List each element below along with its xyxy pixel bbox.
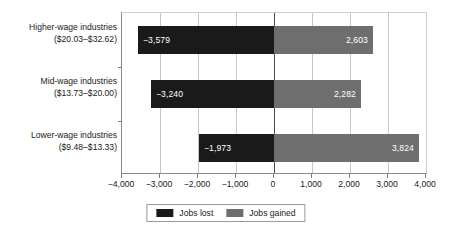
xaxis-tick-label-neg3000: −3,000 [146, 179, 173, 189]
category-label-line2: ($20.03–$32.62) [4, 34, 117, 46]
legend-item-jobs-lost: Jobs lost [156, 208, 213, 218]
bar-value-label: −3,240 [151, 89, 188, 99]
bar-value-label: 3,824 [387, 143, 419, 153]
category-label-line1: Mid-wage industries [4, 76, 117, 88]
category-label-line2: ($9.48–$13.33) [4, 142, 117, 154]
legend-swatch-icon [226, 209, 243, 217]
xaxis-tick [349, 174, 350, 178]
xaxis-tick [235, 174, 236, 178]
xaxis-tick-label-neg1000: −1,000 [222, 179, 249, 189]
legend-item-jobs-gained: Jobs gained [226, 208, 295, 218]
bar-value-label: 2,603 [341, 35, 373, 45]
xaxis-tick [197, 174, 198, 178]
bar-jobs-lost-higher-wage: −3,579 [138, 26, 274, 54]
bar-jobs-lost-lower-wage: −1,973 [199, 134, 274, 162]
xaxis-tick [311, 174, 312, 178]
category-label-line2: ($13.73–$20.00) [4, 88, 117, 100]
category-tick [118, 67, 122, 68]
bar-jobs-lost-mid-wage: −3,240 [151, 80, 274, 108]
xaxis-tick [159, 174, 160, 178]
bar-value-label: −3,579 [138, 35, 175, 45]
bar-jobs-gained-mid-wage: 2,282 [274, 80, 361, 108]
xaxis-tick-label-zero: 0 [271, 179, 276, 189]
bar-value-label: 2,282 [329, 89, 361, 99]
xaxis-tick [273, 174, 274, 178]
xaxis-tick [387, 174, 388, 178]
xaxis-tick-label-pos1000: 1,000 [300, 179, 322, 189]
bar-value-label: −1,973 [199, 143, 236, 153]
xaxis-tick [121, 174, 122, 178]
category-tick [118, 121, 122, 122]
category-label-mid-wage: Mid-wage industries ($13.73–$20.00) [4, 76, 117, 99]
category-label-lower-wage: Lower-wage industries ($9.48–$13.33) [4, 130, 117, 153]
xaxis-tick-label-pos3000: 3,000 [376, 179, 398, 189]
category-label-line1: Higher-wage industries [4, 22, 117, 34]
plot-area: −3,579 2,603 −3,240 2,282 −1,973 3,824 [121, 12, 427, 174]
diverging-bar-chart: Higher-wage industries ($20.03–$32.62) M… [0, 0, 452, 237]
legend-label: Jobs gained [249, 208, 295, 218]
bar-jobs-gained-lower-wage: 3,824 [274, 134, 419, 162]
legend-label: Jobs lost [179, 208, 213, 218]
xaxis-tick-label-pos2000: 2,000 [338, 179, 360, 189]
xaxis-tick [425, 174, 426, 178]
category-label-higher-wage: Higher-wage industries ($20.03–$32.62) [4, 22, 117, 45]
chart-legend: Jobs lost Jobs gained [146, 204, 305, 222]
xaxis-tick-label-neg2000: −2,000 [184, 179, 211, 189]
category-label-line1: Lower-wage industries [4, 130, 117, 142]
legend-swatch-icon [156, 209, 173, 217]
xaxis-tick-label-pos4000: 4,000 [414, 179, 436, 189]
xaxis-tick-label-neg4000: −4,000 [108, 179, 135, 189]
bar-jobs-gained-higher-wage: 2,603 [274, 26, 373, 54]
